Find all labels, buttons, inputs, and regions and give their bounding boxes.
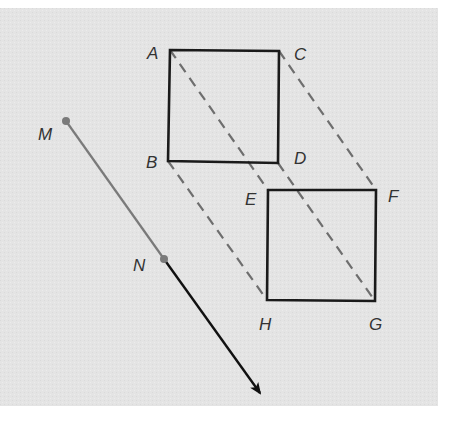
label-F: F (388, 187, 400, 206)
label-H: H (259, 315, 272, 334)
diagram-background (0, 8, 438, 406)
label-A: A (146, 44, 158, 63)
label-E: E (245, 190, 257, 209)
diagram-canvas: ACBDEFHGMN (0, 0, 454, 429)
label-N: N (133, 256, 146, 275)
label-C: C (294, 45, 307, 64)
label-B: B (146, 153, 157, 172)
point-N-dot (160, 255, 168, 263)
translation-diagram: ACBDEFHGMN (0, 0, 454, 429)
point-M-dot (62, 117, 70, 125)
label-D: D (294, 149, 306, 168)
label-M: M (38, 125, 53, 144)
label-G: G (369, 315, 382, 334)
